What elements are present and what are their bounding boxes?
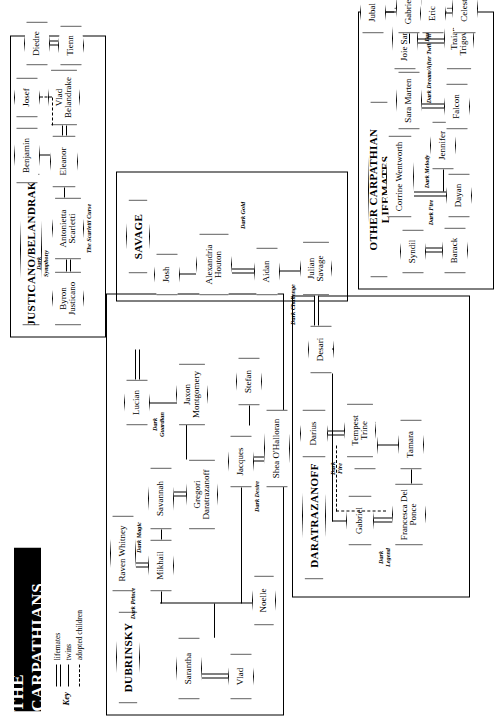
connector [161, 529, 162, 539]
link-desari-julian [314, 295, 319, 325]
adopted-link-josef [40, 96, 52, 97]
connector [280, 270, 300, 271]
node-celeste: Celeste [452, 0, 478, 33]
connector [214, 603, 215, 637]
node-noelle: Noelle [252, 575, 276, 625]
link-traian-joie [418, 38, 444, 43]
group-label-dubrinsky: DUBRINSKY [116, 611, 140, 703]
link-eleanor-vladb [62, 125, 67, 135]
connector [180, 273, 196, 274]
connector [161, 591, 162, 603]
key-label-lifemates: lifemates [53, 632, 62, 660]
node-josef: Josef [14, 77, 40, 117]
node-savannah: Savannah [148, 467, 174, 529]
group-label-savage: SAVAGE [126, 199, 150, 273]
node-gabrielle: Gabrielle [396, 0, 422, 33]
connector [64, 187, 65, 197]
book-title-dark-desire: Dark Desire [254, 479, 261, 513]
node-diedre: Diedre [24, 21, 50, 65]
link-darius-tempest [328, 430, 344, 435]
link-savannah-gregori [174, 491, 186, 496]
key-row-twins: twins [63, 610, 74, 686]
node-julian-savage: Julian Savage [300, 241, 332, 295]
node-syndil: Syndil [400, 229, 426, 273]
node-gregori: Gregori Daratrazanoff [186, 459, 218, 529]
connector [332, 373, 333, 521]
connector [411, 469, 412, 483]
family-tree-diagram: THE CARPATHIANS Key lifemates twins adop… [0, 0, 502, 725]
book-title-dark-fire2: Dark Fire [428, 197, 435, 227]
connector [386, 11, 396, 12]
group-label-other-lifemates: OTHER CARPATHIAN LIFEMATES [368, 101, 390, 277]
link-jacques-shea [254, 456, 264, 461]
link-diedre-tienn [50, 40, 58, 45]
node-jaxon-montgomery: Jaxon Montgomery [176, 363, 208, 425]
node-benjamin: Benjamin [14, 127, 40, 183]
book-title-dark-challenge: Dark Challenge [290, 275, 297, 333]
book-title-dark-guardian: Dark Guardian [152, 407, 165, 441]
twins-line-icon [65, 664, 73, 686]
book-title-scarletti-curse: The Scarletti Curse [86, 193, 93, 263]
page-title: THE CARPATHIANS [14, 547, 41, 711]
key-label-twins: twins [64, 644, 73, 660]
node-francesca: Francesca Del Ponce [392, 483, 426, 545]
node-desari: Desari [308, 325, 334, 373]
link-aidan-alexandria [232, 268, 254, 273]
node-gabriel: Gabriel [346, 495, 374, 545]
node-eric: Eric [420, 0, 446, 33]
node-tamara: Tamara [398, 419, 424, 469]
node-alexandria-houton: Alexandria Houton [196, 233, 232, 295]
book-title-dark-symphony: Dark Symphony [36, 241, 49, 285]
node-mikhail: Mikhail [148, 539, 174, 591]
node-byron-justicano: Byron Justicano [52, 271, 84, 325]
book-title-dark-legend: Dark Legend [378, 543, 391, 571]
connector [249, 405, 250, 425]
node-aidan: Aidan [254, 247, 280, 295]
node-raven-whitney: Raven Whitney [110, 515, 136, 591]
node-eleanor: Eleanor [50, 135, 78, 187]
lifemates-line-icon [54, 664, 62, 686]
book-title-dark-melody: Dark Melody [424, 151, 431, 191]
adopted-link-josef-2 [52, 97, 53, 125]
key-row-lifemates: lifemates [52, 610, 63, 686]
key-legend: Key lifemates twins adopted children [52, 555, 85, 705]
book-title-dark-gold: Dark Gold [240, 197, 247, 233]
node-falcon: Falcon [444, 83, 470, 129]
group-label-daratrazanoff: DARATRAZANOFF [302, 451, 326, 579]
adopted-link-skyler [336, 510, 386, 511]
node-corrine-wentworth: Corrine Wentworth [386, 135, 414, 217]
node-sara-marten: Sara Marten [396, 71, 422, 129]
link-gabriel-francesca [374, 517, 392, 522]
node-jubal: Jubal [360, 0, 386, 33]
node-vlad: Vlad [228, 653, 254, 699]
adopted-line-icon [76, 664, 84, 686]
node-lucian: Lucian [124, 379, 150, 425]
link-byron-antonietta [66, 259, 71, 271]
connector [332, 520, 346, 521]
key-title: Key [52, 692, 71, 705]
key-row-adopted: adopted children [74, 610, 85, 686]
connector [409, 33, 410, 43]
connector [241, 487, 242, 603]
node-shea-ohalloran: Shea O'Halloran [264, 409, 290, 487]
node-barack: Barack [442, 227, 468, 273]
connector [40, 154, 50, 155]
book-title-dark-prince: Dark Prince [130, 585, 137, 621]
node-antonietta-scarletti: Antonietta Scarletti [52, 197, 84, 259]
key-label-adopted: adopted children [75, 610, 84, 660]
link-mikhail-raven [136, 562, 148, 567]
connector [378, 444, 398, 445]
link-lucian-jaxon [135, 349, 140, 379]
link-vlad-sarantha [202, 673, 228, 678]
connector [446, 12, 452, 13]
connector [332, 348, 334, 349]
connector [443, 169, 444, 191]
book-title-dark-magic: Dark Magic [136, 517, 143, 557]
node-stefan: Stefan [236, 357, 262, 405]
node-sarantha: Sarantha [176, 637, 202, 699]
link-barack-syndil [426, 247, 442, 252]
node-tienn: Tienn [58, 25, 84, 65]
node-tempest-trine: Tempest Trine [344, 403, 376, 457]
node-josh: Josh [154, 253, 180, 295]
node-darius: Darius [300, 409, 328, 457]
